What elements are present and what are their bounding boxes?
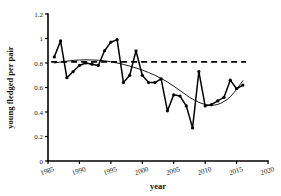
data-point-marker <box>128 74 131 77</box>
data-point-marker <box>197 70 200 73</box>
data-point-marker <box>122 81 125 84</box>
data-point-marker <box>178 94 181 97</box>
data-point-marker <box>222 96 225 99</box>
data-point-marker <box>191 126 194 129</box>
data-point-marker <box>134 49 137 52</box>
data-point-marker <box>185 104 188 107</box>
data-point-marker <box>241 83 244 86</box>
data-point-marker <box>53 55 56 58</box>
data-point-marker <box>216 99 219 102</box>
data-point-marker <box>97 64 100 67</box>
y-tick-label: 1.2 <box>34 11 43 19</box>
y-axis-tick-labels: 00.20.40.60.811.2 <box>34 11 43 166</box>
data-point-marker <box>229 79 232 82</box>
data-point-marker <box>204 104 207 107</box>
y-tick-label: 0.8 <box>34 60 43 68</box>
data-point-marker <box>210 103 213 106</box>
data-point-marker <box>147 81 150 84</box>
x-tick-label: 2000 <box>134 165 150 177</box>
data-point-marker <box>72 70 75 73</box>
data-point-marker <box>109 41 112 44</box>
data-point-marker <box>116 38 119 41</box>
y-axis-title: young fledged per pair <box>5 46 15 128</box>
data-series-markers <box>53 38 245 129</box>
y-tick-label: 0 <box>40 158 44 166</box>
x-axis-tick-labels: 19851990199520002005201020152020 <box>39 165 275 177</box>
data-point-marker <box>90 63 93 66</box>
data-point-marker <box>153 81 156 84</box>
chart-plot-area: 00.20.40.60.811.2 1985199019952000200520… <box>0 0 281 196</box>
y-tick-label: 0.2 <box>34 133 43 141</box>
data-point-marker <box>84 61 87 64</box>
chart-container: 00.20.40.60.811.2 1985199019952000200520… <box>0 0 281 196</box>
data-point-marker <box>166 109 169 112</box>
y-tick-label: 0.4 <box>34 109 43 117</box>
data-point-marker <box>235 87 238 90</box>
data-point-marker <box>103 49 106 52</box>
x-tick-label: 2005 <box>165 165 181 177</box>
data-point-marker <box>141 74 144 77</box>
data-point-marker <box>172 93 175 96</box>
y-tick-label: 1 <box>40 35 44 43</box>
x-axis-title: year <box>150 181 166 191</box>
x-tick-label: 1995 <box>102 165 118 177</box>
data-point-marker <box>59 39 62 42</box>
data-point-marker <box>78 64 81 67</box>
x-tick-label: 1990 <box>71 165 87 177</box>
x-tick-label: 2020 <box>259 165 275 177</box>
data-point-marker <box>65 76 68 79</box>
x-tick-label: 1985 <box>39 165 55 177</box>
y-tick-label: 0.6 <box>34 84 43 92</box>
x-tick-label: 2015 <box>228 165 244 177</box>
data-point-marker <box>160 77 163 80</box>
x-tick-label: 2010 <box>197 165 213 177</box>
